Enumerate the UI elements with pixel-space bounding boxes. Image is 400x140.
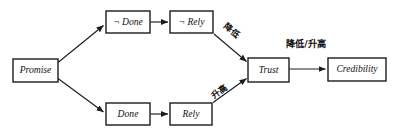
node-label-done: Done: [117, 108, 140, 119]
node-promise[interactable]: Promise: [13, 59, 58, 82]
diagram-canvas: 降低 升高 降低/升高 Promise ¬ Done ¬ Rely Done R…: [0, 0, 400, 140]
node-label-not-done: ¬ Done: [113, 16, 143, 27]
flowchart-svg: 降低 升高 降低/升高 Promise ¬ Done ¬ Rely Done R…: [0, 0, 400, 140]
node-label-credibility: Credibility: [336, 63, 378, 74]
edge-not-rely-to-trust: [214, 34, 247, 62]
node-not-done[interactable]: ¬ Done: [106, 11, 150, 33]
node-not-rely[interactable]: ¬ Rely: [170, 11, 213, 33]
node-label-not-rely: ¬ Rely: [179, 16, 206, 27]
node-label-trust: Trust: [259, 64, 279, 75]
node-rely[interactable]: Rely: [170, 103, 212, 125]
node-label-rely: Rely: [181, 108, 200, 119]
edge-label-trust-to-credibility: 降低/升高: [286, 38, 325, 49]
node-label-promise: Promise: [19, 64, 52, 75]
node-credibility[interactable]: Credibility: [328, 58, 386, 81]
edge-promise-to-done: [58, 79, 104, 113]
node-done[interactable]: Done: [106, 103, 150, 125]
node-trust[interactable]: Trust: [248, 58, 289, 82]
edge-label-not-rely-to-trust: 降低: [222, 20, 243, 40]
edge-promise-to-not-done: [58, 26, 104, 63]
